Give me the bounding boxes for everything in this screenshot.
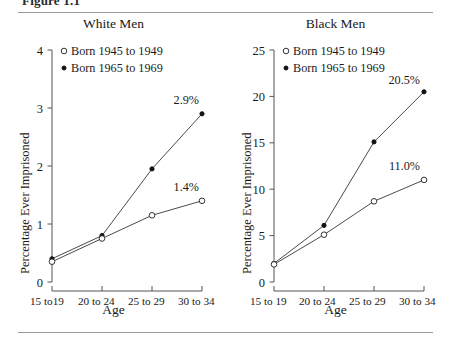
x-ticks-group bbox=[274, 286, 424, 291]
top-divider-rule bbox=[18, 12, 433, 13]
y-tick-label: 0 bbox=[37, 276, 43, 290]
legend-label-born-1965-1969: Born 1965 to 1969 bbox=[71, 61, 163, 75]
y-tick-label: 25 bbox=[253, 44, 266, 58]
legend-open-circle-icon bbox=[283, 48, 289, 54]
panel-white-men: White Men Percentage Ever Imprisoned Age… bbox=[6, 16, 221, 326]
y-ticks-group bbox=[48, 50, 53, 282]
y-tick-label: 10 bbox=[253, 183, 266, 197]
y-tick-labels: 25 20 15 10 5 0 bbox=[253, 44, 266, 290]
y-ticks-group bbox=[270, 50, 275, 282]
y-tick-labels: 4 3 2 1 0 bbox=[37, 44, 44, 290]
legend-label-born-1945-1949: Born 1945 to 1949 bbox=[293, 44, 385, 58]
data-label-lower: 1.4% bbox=[174, 180, 199, 194]
y-tick-label: 2 bbox=[37, 160, 43, 174]
series-line-born-1945-1949 bbox=[52, 201, 202, 262]
bottom-divider-rule bbox=[18, 332, 433, 333]
series-line-born-1965-1969 bbox=[274, 92, 424, 264]
plot-black-men: 25 20 15 10 5 0 15 to 19 20 to 24 25 to … bbox=[228, 16, 443, 316]
legend-open-circle-icon bbox=[61, 48, 67, 54]
y-tick-label: 20 bbox=[253, 90, 266, 104]
x-tick-label: 15 to 19 bbox=[250, 295, 287, 307]
figure-page: Figure 1.1 White Men Percentage Ever Imp… bbox=[0, 0, 449, 345]
y-tick-label: 5 bbox=[259, 229, 265, 243]
legend-filled-circle-icon bbox=[62, 66, 66, 70]
y-tick-label: 3 bbox=[37, 102, 43, 116]
x-tick-label: 30 to 34 bbox=[399, 295, 436, 307]
x-tick-labels: 15 to19 20 to 24 25 to 29 30 to 34 bbox=[30, 295, 215, 307]
y-tick-label: 4 bbox=[37, 44, 44, 58]
series-markers-born-1945-1949 bbox=[49, 198, 205, 265]
x-tick-labels: 15 to 19 20 to 24 25 to 29 30 to 34 bbox=[250, 295, 436, 307]
x-tick-label: 30 to 34 bbox=[178, 295, 215, 307]
plot-white-men: 4 3 2 1 0 15 to19 20 to 24 25 to 29 30 t… bbox=[6, 16, 221, 316]
legend-label-born-1945-1949: Born 1945 to 1949 bbox=[71, 44, 163, 58]
series-markers-born-1945-1949 bbox=[271, 177, 427, 267]
data-label-upper: 20.5% bbox=[389, 73, 420, 87]
legend-filled-circle-icon bbox=[284, 66, 288, 70]
x-tick-label: 25 to 29 bbox=[128, 295, 165, 307]
x-tick-label: 20 to 24 bbox=[78, 295, 115, 307]
legend-label-born-1965-1969: Born 1965 to 1969 bbox=[293, 61, 385, 75]
data-label-lower: 11.0% bbox=[389, 159, 420, 173]
legend-black-men: Born 1945 to 1949 Born 1965 to 1969 bbox=[283, 44, 385, 75]
y-tick-label: 1 bbox=[37, 218, 43, 232]
x-tick-label: 20 to 24 bbox=[299, 295, 336, 307]
x-ticks-group bbox=[52, 286, 202, 291]
y-tick-label: 15 bbox=[253, 136, 266, 150]
panel-black-men: Black Men Percentage Ever Imprisoned Age… bbox=[228, 16, 443, 326]
x-tick-label: 25 to 29 bbox=[349, 295, 386, 307]
y-tick-label: 0 bbox=[259, 276, 265, 290]
legend-white-men: Born 1945 to 1949 Born 1965 to 1969 bbox=[61, 44, 163, 75]
series-markers-born-1965-1969 bbox=[272, 90, 426, 266]
data-label-upper: 2.9% bbox=[174, 93, 199, 107]
x-tick-label: 15 to19 bbox=[30, 295, 64, 307]
figure-label: Figure 1.1 bbox=[22, 0, 80, 9]
series-line-born-1945-1949 bbox=[274, 180, 424, 265]
